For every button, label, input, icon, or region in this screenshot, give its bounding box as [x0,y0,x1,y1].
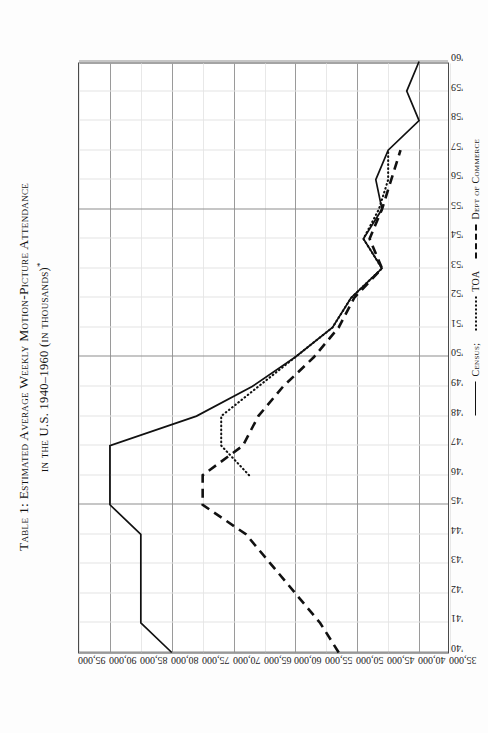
x-tick-label: '42 [451,583,463,594]
legend-label: TOA [470,270,481,291]
x-tick-label: '48 [451,406,463,417]
x-tick-label: '53 [451,258,463,269]
x-tick-label: '46 [451,465,463,476]
legend-swatch-dotted-icon [475,296,477,330]
caption-line-2: in the U.S. 1940–1960 (in thousands)* [34,0,53,733]
caption-line-1: Table 1: Estimated Average Weekly Motion… [14,0,34,733]
y-tick-label: 55,000 [325,655,353,666]
x-tick-label: '43 [451,553,463,564]
x-tick-label: '60 [451,51,463,62]
y-tick-label: 90,000 [109,655,137,666]
x-tick-label: '44 [451,524,463,535]
y-tick-label: 95,000 [78,655,106,666]
x-tick-label: '58 [451,110,463,121]
y-tick-label: 60,000 [294,655,322,666]
legend-item: Dept of Commerce [470,139,481,258]
y-tick-label: 65,000 [264,655,292,666]
x-tick-label: '55 [451,199,463,210]
x-tick-label: '56 [451,169,463,180]
x-tick-label: '45 [451,494,463,505]
y-tick-label: 70,000 [233,655,261,666]
legend: Census;TOADept of Commerce [470,139,481,416]
y-tick-label: 40,000 [418,655,446,666]
x-tick-label: '51 [451,317,463,328]
x-tick-label: '59 [451,81,463,92]
x-tick-label: '41 [451,612,463,623]
legend-item: Census; [470,342,481,415]
rotated-figure-container: Table 1: Estimated Average Weekly Motion… [0,0,488,733]
plot-area [78,62,449,653]
series-line-solid [110,61,419,652]
legend-item: TOA [470,270,481,330]
caption-footnote-marker: * [35,262,45,267]
caption-line-2-text: in the U.S. 1940–1960 (in thousands) [37,266,51,471]
x-tick-label: '49 [451,376,463,387]
x-tick-label: '52 [451,287,463,298]
x-tick-label: '47 [451,435,463,446]
figure-caption: Table 1: Estimated Average Weekly Motion… [14,0,53,733]
y-tick-label: 50,000 [356,655,384,666]
legend-label: Dept of Commerce [470,139,481,219]
legend-swatch-solid-icon [475,381,476,415]
x-tick-label: '50 [451,347,463,358]
legend-label: Census; [470,342,481,376]
series-lines [79,61,450,652]
x-tick-label: '40 [451,642,463,653]
x-tick-label: '57 [451,140,463,151]
y-tick-label: 45,000 [387,655,415,666]
y-tick-label: 80,000 [171,655,199,666]
y-tick-label: 35,000 [449,655,477,666]
legend-swatch-dashed-icon [475,224,477,258]
figure-page: Table 1: Estimated Average Weekly Motion… [0,0,488,733]
y-tick-label: 85,000 [140,655,168,666]
series-line-dotted [221,150,388,475]
figure: Table 1: Estimated Average Weekly Motion… [0,0,488,733]
x-tick-label: '54 [451,228,463,239]
y-tick-label: 75,000 [202,655,230,666]
